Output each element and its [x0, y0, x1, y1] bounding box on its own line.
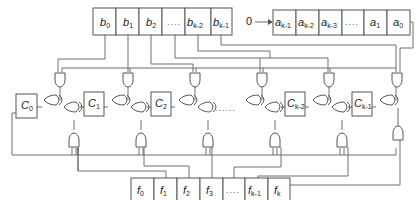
a-cell-dots: .... — [345, 17, 359, 27]
middle-dots: ...... — [215, 103, 236, 113]
circuit-diagram: b0 b1 b2 .... bk-2 bk-1 0 ak-1 ak-2 ak-3… — [0, 0, 418, 200]
and-gates-bottom — [69, 126, 403, 147]
f-cell-dots: .... — [226, 185, 240, 195]
b-register: b0 b1 b2 .... bk-2 bk-1 — [93, 8, 232, 35]
b-cell-dots: .... — [167, 17, 181, 27]
and-gates-top — [55, 73, 402, 87]
f-register: f0 f1 f2 f3 .... fk-1 fk — [131, 178, 290, 200]
a-register: 0 ak-1 ak-2 ak-3 .... a1 a0 — [246, 10, 410, 35]
arrowhead-icon — [268, 19, 273, 25]
a-input-zero: 0 — [246, 15, 252, 27]
